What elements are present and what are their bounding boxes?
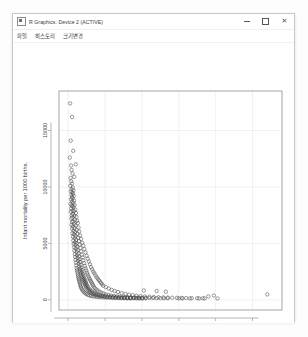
- close-button[interactable]: ✕: [275, 14, 294, 29]
- plot-panel-border: [59, 91, 282, 310]
- r-app-icon: [17, 17, 26, 26]
- window-title: R Graphics: Device 2 (ACTIVE): [29, 19, 103, 25]
- gridlines: [59, 91, 282, 310]
- plot-canvas: 01000020000300004000050000 0500010000150…: [13, 43, 294, 323]
- menubar: 파일 히스토리 크기변경: [13, 30, 294, 43]
- maximize-button[interactable]: [256, 14, 275, 29]
- menu-item-resize[interactable]: 크기변경: [63, 32, 83, 40]
- minimize-button[interactable]: [237, 14, 256, 29]
- window-controls: ✕: [237, 14, 294, 29]
- screen-root: R Graphics: Device 2 (ACTIVE) ✕ 파일 히스토리 …: [0, 0, 308, 337]
- minimize-icon: [244, 21, 250, 22]
- maximize-icon: [262, 18, 269, 25]
- y-axis-title: Infant mortality per 1000 births.: [22, 162, 28, 240]
- svg-text:0: 0: [42, 298, 48, 301]
- menu-item-history[interactable]: 히스토리: [35, 32, 55, 40]
- x-axis: 01000020000300004000050000: [54, 318, 260, 323]
- r-graphics-window: R Graphics: Device 2 (ACTIVE) ✕ 파일 히스토리 …: [12, 13, 295, 322]
- svg-text:15000: 15000: [42, 123, 48, 138]
- window-titlebar[interactable]: R Graphics: Device 2 (ACTIVE) ✕: [13, 14, 294, 30]
- scatter-plot: 01000020000300004000050000 0500010000150…: [13, 43, 294, 323]
- svg-text:5000: 5000: [42, 237, 48, 249]
- menu-item-file[interactable]: 파일: [17, 32, 27, 40]
- data-points: [68, 102, 269, 300]
- svg-text:10000: 10000: [42, 179, 48, 194]
- y-axis: 050001000015000: [42, 123, 51, 312]
- close-icon: ✕: [282, 18, 288, 25]
